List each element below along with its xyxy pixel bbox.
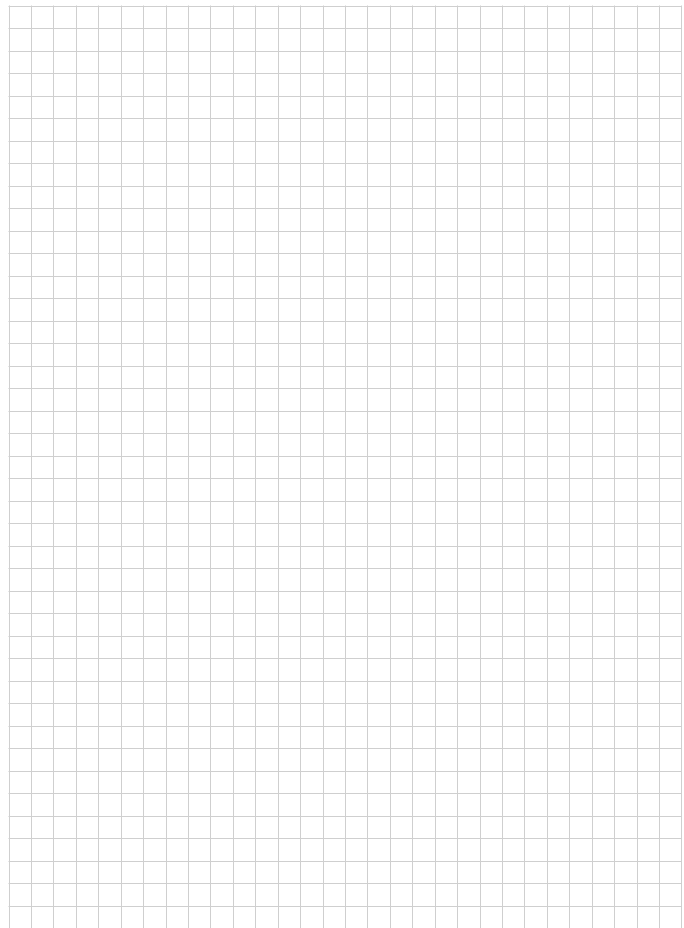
grid-lines <box>0 0 684 928</box>
graph-paper-page <box>0 0 684 928</box>
